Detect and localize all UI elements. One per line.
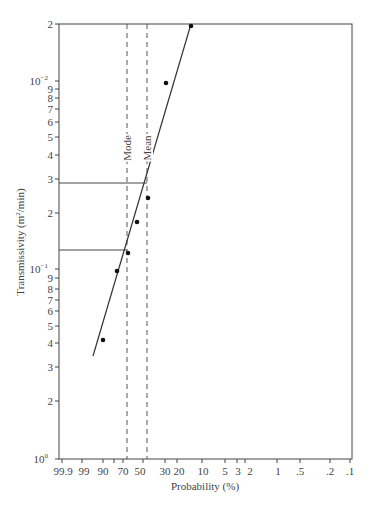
y-tick-label: 3	[48, 173, 54, 185]
data-point	[164, 81, 169, 86]
x-tick-label: .1	[346, 465, 354, 477]
data-point	[126, 251, 131, 256]
y-tick-label: 5	[48, 320, 54, 332]
x-tick-label: 99.9	[53, 465, 73, 477]
y-tick-label: 7	[48, 103, 54, 115]
data-point	[146, 196, 151, 201]
x-tick-label: 30	[160, 465, 172, 477]
y-tick-label: 6	[48, 305, 54, 317]
x-tick-label: 10	[198, 465, 210, 477]
y-tick-label: 2	[48, 18, 54, 30]
x-tick-label: 20	[174, 465, 186, 477]
data-point	[115, 269, 120, 274]
y-tick-label: 4	[48, 149, 54, 161]
y-tick-label: 2	[48, 395, 54, 407]
y-tick-label: 5	[48, 131, 54, 143]
x-axis-tick-labels: 99.9999070503020105321.5.2.1	[53, 465, 354, 477]
data-point	[135, 220, 140, 225]
x-tick-label: 5	[222, 465, 228, 477]
y-tick-label: 3	[48, 361, 54, 373]
mode-label: Mode	[121, 135, 133, 161]
data-point	[101, 338, 106, 343]
y-tick-label: 100	[34, 452, 49, 465]
y-tick-label: 6	[48, 116, 54, 128]
data-point	[189, 24, 194, 29]
x-tick-label: 3	[235, 465, 241, 477]
mean-label: Mean	[141, 135, 153, 161]
y-axis-ticks	[55, 24, 59, 459]
y-tick-label: 10−1	[30, 262, 49, 275]
y-axis-title: Transmissivity (m2/min)	[14, 188, 27, 296]
fit-line	[93, 24, 191, 356]
x-tick-label: 1	[275, 465, 281, 477]
x-tick-label: 90	[98, 465, 110, 477]
plot-frame	[59, 24, 352, 459]
x-tick-label: 2	[247, 465, 253, 477]
x-tick-label: 99	[79, 465, 91, 477]
x-tick-label: .2	[326, 465, 334, 477]
probability-plot: Mode Mean 210−29876543210−198765432100 9…	[0, 0, 375, 510]
x-tick-label: 50	[135, 465, 147, 477]
y-tick-label: 4	[48, 337, 54, 349]
x-axis-title: Probability (%)	[171, 480, 239, 493]
y-axis-tick-labels: 210−29876543210−198765432100	[30, 18, 54, 465]
y-tick-label: 2	[48, 207, 54, 219]
x-tick-label: 70	[118, 465, 130, 477]
y-tick-label: 10−2	[30, 74, 49, 87]
x-tick-label: .5	[296, 465, 305, 477]
x-axis-ticks	[62, 459, 350, 463]
